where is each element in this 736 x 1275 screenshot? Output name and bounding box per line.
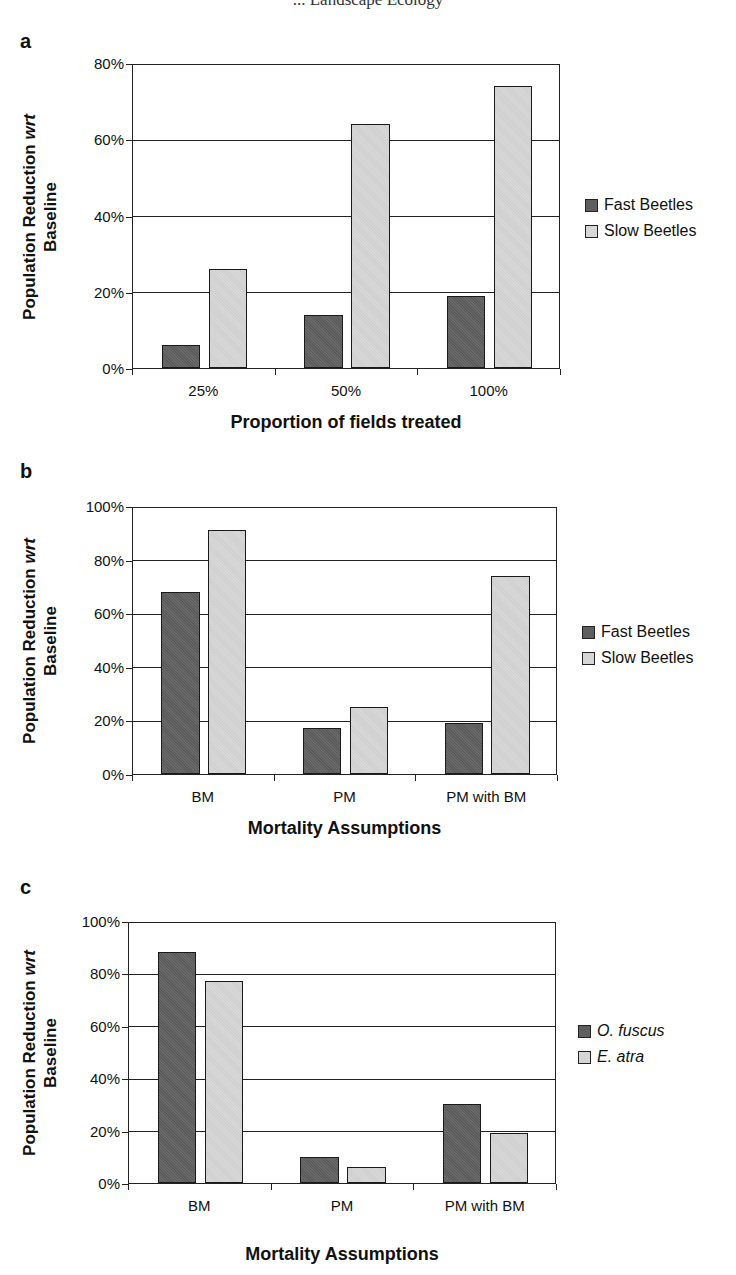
x-category-label: BM	[133, 788, 273, 805]
y-axis-label-line1: Population Reduction wrt	[19, 903, 40, 1203]
y-axis-label-wrt: wrt	[20, 538, 39, 564]
y-tick-mark	[122, 1027, 128, 1028]
x-tick-mark	[274, 775, 275, 781]
bar-slow-beetles-pm	[350, 707, 388, 774]
y-tick-label: 0%	[68, 360, 124, 377]
bar-slow-beetles-50-	[351, 124, 390, 368]
y-tick-mark	[126, 293, 132, 294]
y-tick-label: 60%	[68, 605, 124, 622]
x-category-label: 100%	[419, 382, 559, 399]
x-category-label: PM with BM	[415, 1197, 555, 1214]
y-tick-label: 40%	[68, 659, 124, 676]
y-tick-label: 40%	[64, 1070, 120, 1087]
x-tick-mark	[275, 369, 276, 375]
y-tick-label: 40%	[68, 208, 124, 225]
y-tick-label: 60%	[68, 131, 124, 148]
y-tick-mark	[126, 721, 132, 722]
panel-letter: c	[20, 876, 31, 899]
legend-label: Fast Beetles	[601, 623, 690, 641]
page-header-partial: ... Landscape Ecology	[0, 0, 736, 10]
x-tick-mark	[128, 1184, 129, 1190]
legend-swatch-icon	[578, 1025, 591, 1038]
y-axis-label: Population Reduction wrtBaseline	[19, 67, 61, 367]
y-axis-label-wrt: wrt	[20, 114, 39, 140]
y-tick-mark	[126, 64, 132, 65]
legend-label: Fast Beetles	[604, 196, 693, 214]
y-tick-label: 80%	[68, 552, 124, 569]
y-axis-label-line2: Baseline	[40, 491, 61, 791]
x-tick-mark	[560, 369, 561, 375]
bar-slow-beetles-bm	[208, 530, 246, 774]
y-axis-label-line1: Population Reduction wrt	[19, 491, 40, 791]
y-tick-label: 80%	[68, 55, 124, 72]
legend-label: O. fuscus	[597, 1022, 665, 1040]
x-tick-mark	[556, 1184, 557, 1190]
x-category-label: 50%	[276, 382, 416, 399]
bar-fast-beetles-25-	[162, 345, 201, 368]
bar-slow-beetles-pm-with-bm	[491, 576, 529, 774]
legend-label: E. atra	[597, 1048, 644, 1066]
bar-o-fuscus-bm	[158, 952, 197, 1183]
y-axis-label-wrt: wrt	[20, 950, 39, 976]
legend-swatch-icon	[585, 225, 598, 238]
panel-letter: b	[20, 460, 32, 483]
y-tick-mark	[126, 140, 132, 141]
y-tick-mark	[126, 561, 132, 562]
y-tick-label: 80%	[64, 965, 120, 982]
y-tick-mark	[126, 507, 132, 508]
x-category-label: BM	[129, 1197, 269, 1214]
x-tick-mark	[413, 1184, 414, 1190]
legend-item: O. fuscus	[578, 1018, 665, 1044]
x-category-label: PM	[272, 1197, 412, 1214]
y-tick-label: 20%	[64, 1123, 120, 1140]
bar-e-atra-bm	[205, 981, 244, 1183]
x-axis-title: Proportion of fields treated	[131, 412, 561, 433]
y-tick-label: 100%	[68, 498, 124, 515]
x-category-label: PM	[275, 788, 415, 805]
legend: Fast BeetlesSlow Beetles	[582, 619, 694, 671]
bar-fast-beetles-pm	[303, 728, 341, 774]
y-tick-label: 20%	[68, 284, 124, 301]
x-tick-mark	[557, 775, 558, 781]
y-tick-mark	[122, 1079, 128, 1080]
legend: Fast BeetlesSlow Beetles	[585, 192, 697, 244]
bar-fast-beetles-bm	[161, 592, 199, 774]
y-tick-label: 100%	[64, 913, 120, 930]
legend-item: Fast Beetles	[582, 619, 694, 645]
y-axis-label-text: Population Reduction	[20, 564, 39, 744]
bar-o-fuscus-pm	[300, 1157, 339, 1183]
legend-swatch-icon	[582, 652, 595, 665]
y-tick-mark	[126, 668, 132, 669]
x-tick-mark	[132, 775, 133, 781]
y-tick-mark	[122, 1132, 128, 1133]
x-category-label: PM with BM	[416, 788, 556, 805]
y-axis-label-line1: Population Reduction wrt	[19, 67, 40, 367]
legend-item: E. atra	[578, 1044, 665, 1070]
legend-swatch-icon	[585, 199, 598, 212]
legend-swatch-icon	[582, 626, 595, 639]
x-category-label: 25%	[133, 382, 273, 399]
legend-item: Slow Beetles	[585, 218, 697, 244]
x-axis-title: Mortality Assumptions	[127, 1244, 557, 1265]
bar-fast-beetles-100-	[447, 296, 486, 368]
y-tick-mark	[126, 217, 132, 218]
y-axis-label: Population Reduction wrtBaseline	[19, 491, 61, 791]
legend-swatch-icon	[578, 1051, 591, 1064]
x-tick-mark	[415, 775, 416, 781]
y-tick-mark	[126, 614, 132, 615]
plot-area	[128, 922, 556, 1184]
bar-e-atra-pm	[347, 1167, 386, 1183]
y-axis-label: Population Reduction wrtBaseline	[19, 903, 61, 1203]
bar-e-atra-pm-with-bm	[490, 1133, 529, 1183]
bar-slow-beetles-100-	[494, 86, 533, 368]
y-tick-mark	[122, 974, 128, 975]
bar-fast-beetles-pm-with-bm	[445, 723, 483, 774]
x-axis-title: Mortality Assumptions	[130, 818, 560, 839]
y-tick-label: 60%	[64, 1018, 120, 1035]
bar-fast-beetles-50-	[304, 315, 343, 368]
gridline	[133, 560, 556, 561]
panel-letter: a	[20, 30, 31, 53]
bar-slow-beetles-25-	[209, 269, 248, 368]
legend-label: Slow Beetles	[601, 649, 694, 667]
bar-o-fuscus-pm-with-bm	[443, 1104, 482, 1183]
